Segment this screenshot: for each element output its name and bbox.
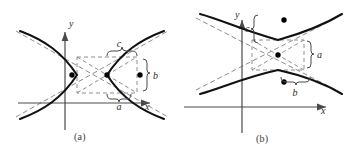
center-dot: [275, 52, 280, 57]
upper-focus-dot: [281, 17, 286, 22]
panel-a: x y c a b (a): [0, 0, 174, 152]
hyperbola-figure: x y c a b (a): [0, 0, 347, 152]
brace-b-a: [143, 59, 150, 91]
y-axis-label-b: y: [234, 9, 240, 20]
asymptotes-b: [196, 18, 336, 90]
label-c-a: c: [117, 38, 122, 49]
panel-b-graphic: x y c a b: [174, 0, 347, 152]
x-axis-label-b: x: [320, 105, 326, 116]
label-b-a: b: [153, 70, 158, 81]
right-focus-dot: [137, 72, 142, 77]
left-focus-dot: [69, 72, 74, 77]
y-axis-label-a: y: [68, 18, 74, 29]
caption-panel-b: (b): [256, 133, 268, 144]
center-dot: [104, 72, 109, 77]
label-b-b: b: [293, 87, 298, 98]
panel-b: x y c a b (b): [174, 0, 347, 152]
axes-a: [18, 32, 150, 130]
label-a-b: a: [317, 49, 322, 60]
caption-panel-a: (a): [74, 131, 86, 142]
focus-points-a: [69, 72, 142, 77]
brace-c-b: [251, 15, 258, 43]
panel-a-graphic: x y c a b: [0, 0, 174, 152]
brace-a-b: [307, 41, 314, 68]
label-c-b: c: [245, 23, 250, 34]
x-axis-label-a: x: [144, 101, 150, 112]
label-a-a: a: [117, 101, 122, 112]
